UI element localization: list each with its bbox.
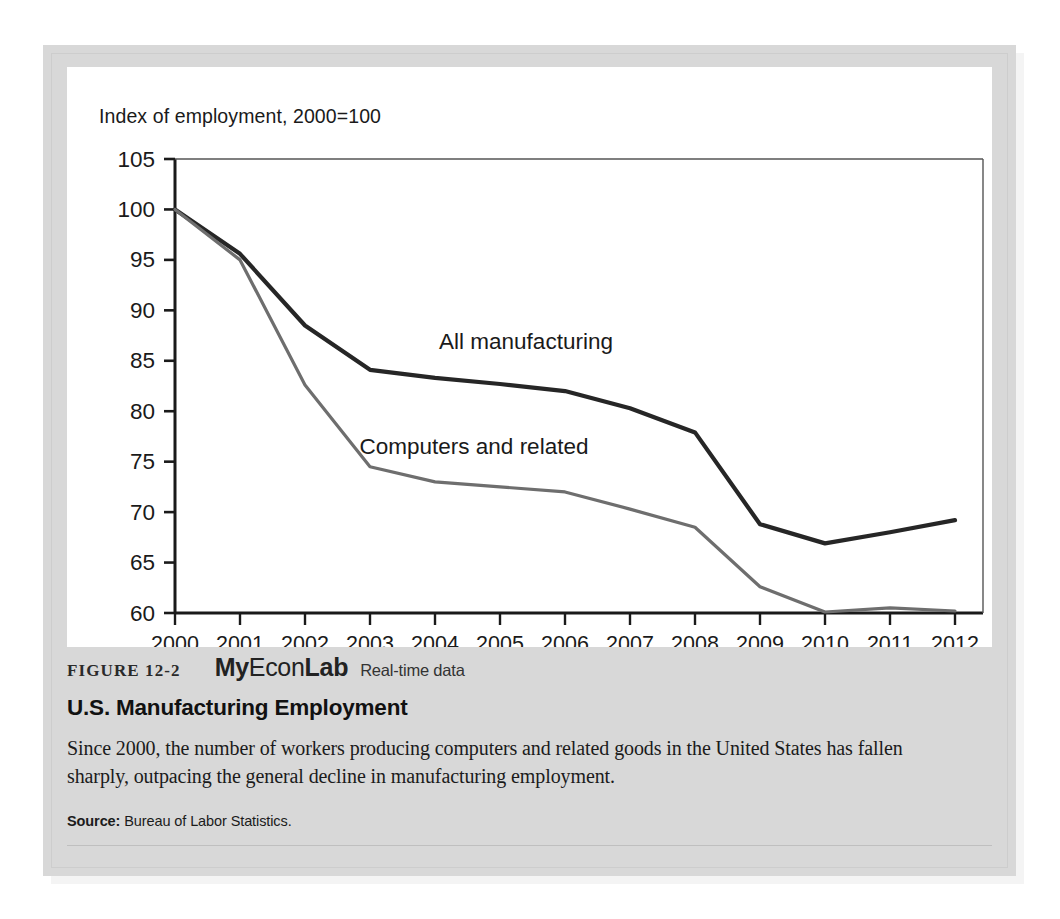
y-axis-tick-label: 105: [117, 147, 155, 172]
source-label: Source:: [67, 813, 120, 829]
x-axis-tick-label: 2007: [606, 632, 654, 647]
y-axis-tick-label: 90: [130, 298, 155, 323]
x-axis-tick-label: 2008: [671, 632, 719, 647]
figure-number-label: FIGURE 12-2: [67, 661, 181, 681]
series-annotation-all-manufacturing: All manufacturing: [439, 329, 613, 354]
caption-header-row: FIGURE 12-2 MyEconLab Real-time data: [67, 655, 992, 689]
myeconlab-lab: Lab: [305, 653, 349, 681]
x-axis-tick-label: 2012: [931, 632, 979, 647]
y-axis-tick-label: 70: [130, 500, 155, 525]
series-annotation-computers-and-related: Computers and related: [360, 434, 589, 459]
x-axis-tick-label: 2010: [801, 632, 849, 647]
figure-root: Index of employment, 2000=100 6065707580…: [0, 0, 1060, 919]
x-axis-tick-label: 2006: [541, 632, 589, 647]
figure-title: U.S. Manufacturing Employment: [67, 695, 992, 721]
caption-divider: [67, 845, 992, 846]
x-axis-tick-label: 2011: [867, 632, 913, 647]
x-axis-tick-label: 2004: [411, 632, 459, 647]
realtime-data-label: Real-time data: [360, 661, 465, 680]
line-chart-plot: 6065707580859095100105200020012002200320…: [67, 67, 992, 647]
x-axis-tick-label: 2005: [476, 632, 524, 647]
source-text: Bureau of Labor Statistics.: [124, 813, 291, 829]
x-axis-tick-label: 2002: [281, 632, 329, 647]
figure-source: Source: Bureau of Labor Statistics.: [67, 813, 992, 829]
myeconlab-econ: Econ: [249, 653, 305, 681]
y-axis-tick-label: 95: [130, 247, 155, 272]
x-axis-tick-label: 2003: [346, 632, 394, 647]
y-axis-tick-label: 60: [130, 601, 155, 626]
figure-caption-block: FIGURE 12-2 MyEconLab Real-time data U.S…: [67, 655, 992, 829]
x-axis-tick-label: 2001: [216, 632, 264, 647]
series-line-computers-and-related: [175, 209, 955, 612]
y-axis-tick-label: 75: [130, 449, 155, 474]
myeconlab-my: My: [215, 653, 249, 681]
y-axis-tick-label: 80: [130, 399, 155, 424]
figure-panel: Index of employment, 2000=100 6065707580…: [43, 45, 1016, 876]
x-axis-tick-label: 2009: [736, 632, 784, 647]
y-axis-tick-label: 65: [130, 550, 155, 575]
myeconlab-logo: MyEconLab: [215, 655, 348, 680]
figure-description: Since 2000, the number of workers produc…: [67, 734, 947, 791]
chart-card: Index of employment, 2000=100 6065707580…: [67, 67, 992, 647]
y-axis-tick-label: 85: [130, 348, 155, 373]
y-axis-tick-label: 100: [117, 197, 155, 222]
x-axis-tick-label: 2000: [151, 632, 199, 647]
